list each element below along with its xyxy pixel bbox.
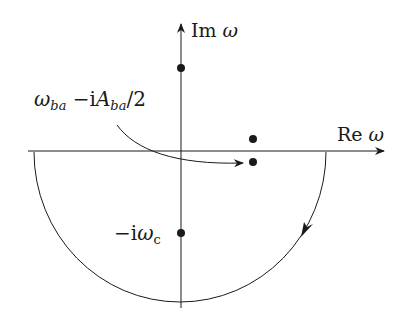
real-axis-label: Re ω [337, 125, 384, 144]
lower-imag-pole-dot [177, 229, 185, 237]
im-var: ω [223, 19, 239, 41]
upper-imag-pole-dot [177, 64, 185, 72]
pole-label: ωba −iAba/2 [34, 89, 146, 112]
im-prefix: Im [191, 19, 217, 41]
upper-right-pole-dot [249, 135, 257, 143]
contour-direction-arrow-icon [301, 222, 313, 237]
imaginary-axis-label: Im ω [191, 21, 238, 40]
a-symbol: A [96, 87, 110, 111]
complex-plane-diagram [0, 0, 407, 323]
lower-pole-label: −iωc [114, 223, 161, 246]
contour-semicircle [34, 152, 326, 302]
re-var: ω [369, 123, 385, 145]
minus-i-lower: −i [114, 221, 137, 245]
re-prefix: Re [337, 123, 363, 145]
over-two: /2 [126, 87, 145, 111]
a-subscript: ba [110, 98, 126, 113]
pole-annotation-arrow [117, 125, 243, 163]
c-subscript: c [153, 232, 160, 247]
omega-symbol: ω [34, 87, 50, 111]
minus-i: −i [66, 87, 96, 111]
lower-right-pole-dot [249, 158, 257, 166]
omega-lower: ω [137, 221, 153, 245]
omega-subscript: ba [50, 98, 66, 113]
